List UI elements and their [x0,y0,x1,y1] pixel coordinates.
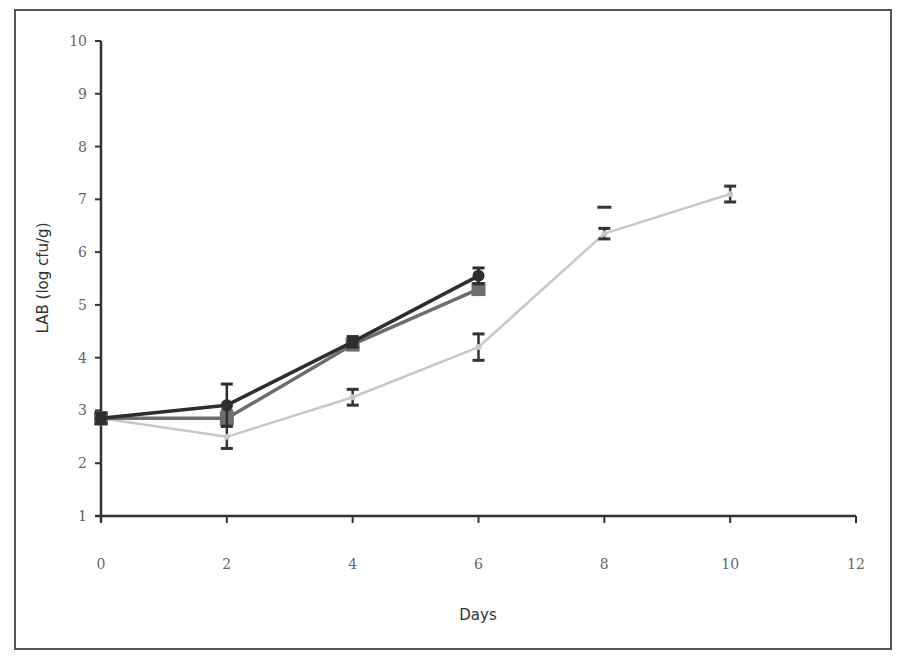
x-tick-label: 10 [721,556,739,572]
y-tick-label: 10 [69,33,87,49]
point-marker [224,434,230,440]
y-tick-label: 5 [78,297,87,313]
x-axis: 024681012 [95,516,865,572]
x-tick-label: 6 [474,556,483,572]
y-tick-label: 2 [78,455,87,471]
series-layer [94,186,736,448]
y-tick-label: 9 [78,86,87,102]
y-tick-label: 7 [78,191,87,207]
series-1 [95,268,485,426]
line-chart: 12345678910 024681012 Days LAB (log cfu/… [0,0,906,662]
y-axis: 12345678910 [69,33,101,524]
y-tick-label: 6 [78,244,87,260]
x-tick-label: 2 [222,556,231,572]
circle-marker [95,412,107,424]
x-tick-label: 0 [97,556,106,572]
x-tick-label: 4 [348,556,357,572]
point-marker [350,394,356,400]
x-tick-label: 12 [847,556,865,572]
y-axis-title: LAB (log cfu/g) [34,223,52,334]
y-tick-label: 4 [78,350,87,366]
point-marker [476,344,482,350]
x-tick-label: 8 [600,556,609,572]
circle-marker [221,399,233,411]
circle-marker [347,336,359,348]
point-marker [601,231,607,237]
circle-marker [473,270,485,282]
y-tick-label: 3 [78,402,87,418]
y-tick-label: 1 [78,508,87,524]
point-marker [727,191,733,197]
y-tick-label: 8 [78,139,87,155]
x-axis-title: Days [459,606,497,624]
